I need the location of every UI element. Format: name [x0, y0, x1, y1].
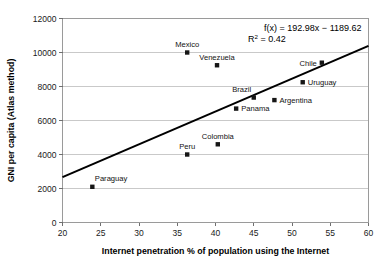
data-point-marker [215, 63, 219, 67]
x-axis-tick-label: 40 [211, 228, 221, 238]
x-axis-title: Internet penetration % of population usi… [102, 246, 329, 256]
data-point-marker [272, 98, 276, 102]
data-point-marker [185, 50, 189, 54]
x-axis-tick-label: 45 [249, 228, 259, 238]
gridlines [63, 19, 369, 189]
data-point-label: Uruguay [308, 78, 337, 87]
x-axis-tick-label: 50 [287, 228, 297, 238]
y-axis-tick-label: 12000 [33, 14, 57, 24]
r-squared-text: R2 = 0.42 [248, 33, 286, 44]
data-point-marker [216, 142, 220, 146]
x-axis-tick-label: 35 [173, 228, 183, 238]
data-point-label: Paraguay [95, 174, 128, 183]
y-axis-tick-label: 2000 [38, 184, 57, 194]
y-axis: 020004000600080001000012000 [33, 14, 63, 228]
data-point-label: Argentina [279, 96, 312, 105]
data-point-label: Peru [179, 142, 195, 151]
x-axis-tick-label: 30 [134, 228, 144, 238]
data-point-marker [320, 61, 324, 65]
equation-annotation: f(x) = 192.98x − 1189.62R2 = 0.42 [248, 23, 362, 44]
x-axis-tick-label: 25 [96, 228, 106, 238]
data-point-marker [234, 106, 238, 110]
data-point-marker [301, 80, 305, 84]
data-point-label: Brazil [232, 85, 251, 94]
y-axis-tick-label: 0 [52, 218, 57, 228]
x-axis-tick-label: 20 [58, 228, 68, 238]
data-points: ParaguayPeruColombiaPanamaArgentinaBrazi… [90, 40, 336, 189]
y-axis-tick-label: 8000 [38, 82, 57, 92]
data-point-marker [90, 185, 94, 189]
y-axis-tick-label: 4000 [38, 150, 57, 160]
x-axis: 202530354045505560 [58, 223, 374, 238]
data-point-label: Panama [241, 104, 270, 113]
y-axis-title: GNI per capita (Atlas method) [6, 59, 16, 183]
x-axis-tick-label: 55 [326, 228, 336, 238]
data-point-label: Chile [300, 59, 317, 68]
y-axis-tick-label: 6000 [38, 116, 57, 126]
data-point-label: Colombia [202, 132, 235, 141]
equation-text: f(x) = 192.98x − 1189.62 [264, 23, 361, 33]
data-point-marker [252, 95, 256, 99]
x-axis-tick-label: 60 [364, 228, 374, 238]
data-point-label: Mexico [175, 40, 199, 49]
scatter-chart: 0200040006000800010000120002025303540455… [0, 0, 385, 270]
data-point-label: Venezuela [199, 53, 235, 62]
chart-canvas: 0200040006000800010000120002025303540455… [0, 0, 385, 270]
r-squared-value: = 0.42 [258, 34, 286, 44]
y-axis-tick-label: 10000 [33, 48, 57, 58]
data-point-marker [185, 152, 189, 156]
